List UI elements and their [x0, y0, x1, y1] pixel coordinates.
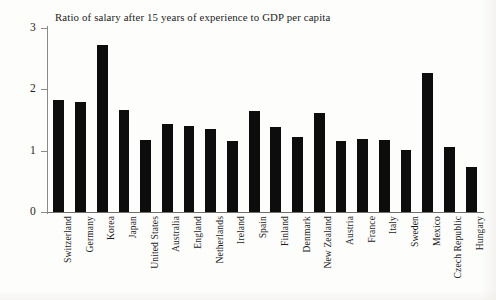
x-axis-tick-label: Mexico	[432, 216, 442, 246]
bar	[422, 73, 433, 212]
bar	[162, 124, 173, 212]
x-axis-tick-label: Australia	[171, 216, 181, 252]
bar-slot	[140, 20, 151, 212]
bar-slot	[205, 20, 216, 212]
bar	[97, 45, 108, 212]
x-axis-line	[41, 212, 484, 213]
y-tick-mark	[41, 89, 48, 90]
bar-slot	[357, 20, 368, 212]
bar	[379, 140, 390, 212]
x-axis-tick-label: Finland	[280, 216, 290, 246]
y-tick-label-wrap: 2	[8, 83, 36, 95]
bar-slot	[292, 20, 303, 212]
bar-slot	[401, 20, 412, 212]
bar-slot	[162, 20, 173, 212]
x-axis-tick-label: Korea	[106, 216, 116, 240]
scan-edge-bottom	[0, 290, 496, 300]
bar-chart-figure: Ratio of salary after 15 years of experi…	[0, 0, 496, 300]
bar	[314, 113, 325, 212]
bar	[75, 102, 86, 212]
bar	[270, 127, 281, 212]
bar-slot	[249, 20, 260, 212]
bar	[292, 137, 303, 212]
x-axis-tick-label: Switzerland	[63, 216, 73, 263]
y-tick-mark	[41, 212, 48, 213]
x-axis-tick-label: Spain	[258, 216, 268, 238]
plot-area	[48, 20, 482, 212]
bar-slot	[336, 20, 347, 212]
bar	[140, 140, 151, 212]
bar	[466, 167, 477, 212]
x-axis-tick-label: United States	[150, 216, 160, 269]
bar-slot	[270, 20, 281, 212]
bar-slot	[53, 20, 64, 212]
bar-slot	[119, 20, 130, 212]
x-axis-tick-label: England	[193, 216, 203, 249]
x-axis-tick-label: France	[367, 216, 377, 243]
y-tick-label-wrap: 1	[8, 145, 36, 157]
bar	[184, 126, 195, 212]
x-axis-tick-label: Italy	[388, 216, 398, 234]
bar-slot	[75, 20, 86, 212]
y-tick-label: 1	[10, 145, 36, 157]
bar-slot	[422, 20, 433, 212]
y-tick-label-wrap: 3	[8, 22, 36, 34]
bar	[119, 110, 130, 212]
bar	[444, 147, 455, 212]
scan-edge-right	[482, 0, 496, 300]
y-tick-label: 3	[10, 22, 36, 34]
y-tick-label: 2	[10, 83, 36, 95]
bar-slot	[97, 20, 108, 212]
bar-slot	[227, 20, 238, 212]
x-axis-tick-label: Denmark	[302, 216, 312, 252]
x-axis-tick-label: Germany	[85, 216, 95, 252]
y-tick-label: 0	[10, 206, 36, 218]
y-tick-mark	[41, 28, 48, 29]
bar	[205, 129, 216, 212]
bar-slot	[184, 20, 195, 212]
x-axis-tick-label: Netherlands	[215, 216, 225, 263]
x-axis-tick-label: Austria	[345, 216, 355, 245]
bar	[249, 111, 260, 212]
x-axis-tick-label: Sweden	[410, 216, 420, 247]
bar	[227, 141, 238, 212]
bar	[357, 139, 368, 212]
x-axis-tick-label: Ireland	[236, 216, 246, 244]
y-tick-label-wrap: 0	[8, 206, 36, 218]
bar-slot	[379, 20, 390, 212]
x-axis-tick-label: Czech Republic	[453, 216, 463, 278]
bar	[53, 100, 64, 212]
bar	[401, 150, 412, 212]
x-axis-tick-label: Hungary	[475, 216, 485, 250]
y-tick-mark	[41, 151, 48, 152]
x-axis-tick-label: Japan	[128, 216, 138, 238]
bar	[336, 141, 347, 212]
bar-slot	[466, 20, 477, 212]
bar-slot	[444, 20, 455, 212]
x-axis-tick-label: New Zealand	[323, 216, 333, 269]
bar-slot	[314, 20, 325, 212]
